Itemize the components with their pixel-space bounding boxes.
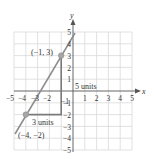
point-label-neg4-neg2: (−4, −2) bbox=[18, 131, 45, 140]
x-axis-label: x bbox=[141, 87, 146, 96]
point-neg1-3 bbox=[58, 53, 64, 59]
svg-text:2: 2 bbox=[95, 94, 99, 103]
svg-text:4: 4 bbox=[118, 94, 122, 103]
rise-label: 5 units bbox=[75, 82, 97, 91]
svg-text:−5: −5 bbox=[6, 94, 14, 103]
svg-text:5: 5 bbox=[130, 94, 134, 103]
svg-text:2: 2 bbox=[67, 64, 71, 73]
point-label-neg1-3: (−1, 3) bbox=[31, 48, 53, 57]
x-axis-arrow-icon bbox=[135, 89, 141, 94]
svg-text:5: 5 bbox=[67, 28, 71, 37]
svg-text:3: 3 bbox=[67, 52, 71, 61]
svg-text:3: 3 bbox=[107, 94, 111, 103]
svg-text:−5: −5 bbox=[63, 146, 71, 155]
point-neg4-neg2 bbox=[23, 112, 29, 118]
y-axis-label: y bbox=[69, 11, 74, 20]
svg-text:1: 1 bbox=[83, 94, 87, 103]
svg-text:−3: −3 bbox=[63, 123, 71, 132]
svg-text:−4: −4 bbox=[63, 134, 71, 143]
svg-text:−3: −3 bbox=[31, 94, 39, 103]
coordinate-graph: x y −5 −4 −3 −2 −1 1 2 3 4 5 5 4 3 2 1 −… bbox=[0, 0, 154, 159]
y-tick-labels: 5 4 3 2 1 −1 −2 −3 −4 −5 bbox=[63, 28, 71, 155]
svg-text:−4: −4 bbox=[18, 94, 26, 103]
svg-text:4: 4 bbox=[67, 40, 71, 49]
svg-text:−1: −1 bbox=[63, 99, 71, 108]
svg-text:−2: −2 bbox=[63, 111, 71, 120]
svg-text:−2: −2 bbox=[43, 94, 51, 103]
run-label: 3 units bbox=[32, 118, 54, 127]
svg-text:1: 1 bbox=[67, 75, 71, 84]
